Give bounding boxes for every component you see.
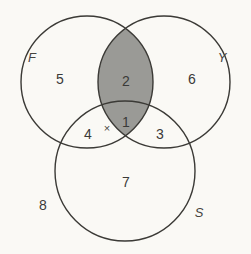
- region-label-F-only: 5: [56, 71, 64, 87]
- region-label-FY-only: 2: [122, 73, 130, 89]
- region-label-FS-only: 4: [84, 126, 92, 142]
- set-label-S: S: [195, 205, 204, 220]
- set-label-Y: Y: [218, 50, 227, 65]
- region-label-Y-only: 6: [188, 71, 196, 87]
- set-label-F: F: [28, 50, 36, 65]
- region-label-S-only: 7: [122, 174, 130, 190]
- venn-diagram-figure: F Y S 5 2 6 4 1 3 7 8 ×: [0, 0, 251, 254]
- element-x-mark: ×: [104, 122, 110, 134]
- region-label-YS-only: 3: [156, 126, 164, 142]
- region-label-FYS-center: 1: [122, 114, 130, 130]
- region-label-outside-all: 8: [39, 197, 47, 213]
